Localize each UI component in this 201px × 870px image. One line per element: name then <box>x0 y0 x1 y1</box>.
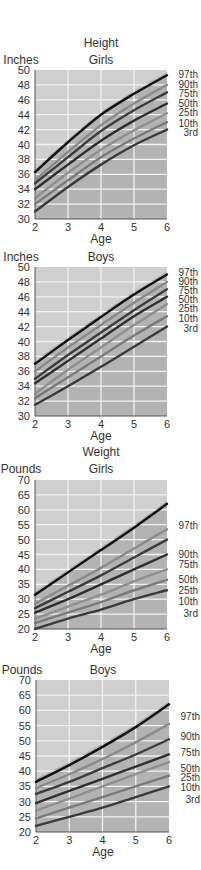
series-label-97th: 97th <box>181 711 200 722</box>
y-tick-label: 50 <box>19 735 31 747</box>
y-tick-label: 35 <box>19 780 31 792</box>
y-tick-label: 65 <box>19 689 31 701</box>
series-label-10th: 10th <box>181 782 200 793</box>
y-tick-label: 40 <box>19 765 31 777</box>
y-tick-label: 55 <box>19 720 31 732</box>
series-label-75th: 75th <box>181 747 200 758</box>
x-tick-label: 5 <box>133 834 139 846</box>
y-tick-label: 60 <box>19 704 31 716</box>
series-label-50th: 50th <box>181 763 200 774</box>
series-label-3rd: 3rd <box>186 794 200 805</box>
height-girls-xlabel: Age <box>90 233 111 245</box>
y-tick-label: 70 <box>19 674 31 686</box>
series-label-90th: 90th <box>181 731 200 742</box>
y-tick-label: 25 <box>19 811 31 823</box>
weight-girls-xlabel: Age <box>90 643 111 655</box>
x-tick-label: 6 <box>166 834 172 846</box>
x-tick-label: 3 <box>66 834 72 846</box>
y-tick-label: 30 <box>19 796 31 808</box>
y-tick-label: 45 <box>19 750 31 762</box>
x-tick-label: 2 <box>33 834 39 846</box>
y-tick-label: 20 <box>19 826 31 838</box>
height-boys-xlabel: Age <box>90 430 111 442</box>
weight-boys-xlabel: Age <box>92 846 113 858</box>
